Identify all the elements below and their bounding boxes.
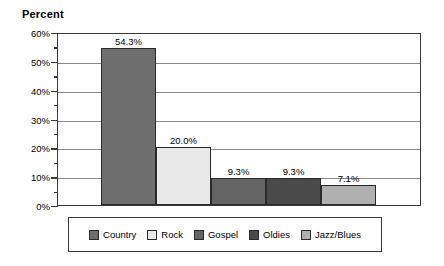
legend-swatch-icon bbox=[147, 230, 157, 240]
chart-legend: CountryRockGospelOldiesJazz/Blues bbox=[68, 217, 382, 252]
y-axis-tick-label: 50% bbox=[31, 56, 50, 67]
y-axis-tick-label: 20% bbox=[31, 143, 50, 154]
bar-chart: Percent 60%50%40%30%20%10%0% 54.3%20.0%9… bbox=[0, 0, 444, 266]
bars-layer: 54.3%20.0%9.3%9.3%7.1% bbox=[58, 34, 420, 205]
y-axis-major-tick bbox=[51, 206, 58, 207]
chart-title: Percent bbox=[22, 8, 64, 20]
legend-label: Gospel bbox=[208, 229, 238, 240]
legend-swatch-icon bbox=[194, 230, 204, 240]
bar bbox=[101, 48, 156, 205]
bar bbox=[156, 147, 211, 205]
bar bbox=[321, 185, 376, 205]
bar-value-label: 54.3% bbox=[115, 36, 142, 47]
legend-item[interactable]: Country bbox=[89, 229, 136, 240]
y-axis-tick-label: 0% bbox=[36, 201, 50, 212]
bar-value-label: 9.3% bbox=[228, 166, 250, 177]
legend-item[interactable]: Jazz/Blues bbox=[301, 229, 361, 240]
legend-swatch-icon bbox=[89, 230, 99, 240]
legend-label: Oldies bbox=[263, 229, 290, 240]
bar-value-label: 20.0% bbox=[170, 135, 197, 146]
legend-item[interactable]: Gospel bbox=[194, 229, 238, 240]
plot-area: 54.3%20.0%9.3%9.3%7.1% bbox=[57, 33, 421, 206]
legend-label: Rock bbox=[161, 229, 183, 240]
bar-value-label: 7.1% bbox=[338, 173, 360, 184]
y-axis-tick-label: 60% bbox=[31, 28, 50, 39]
legend-item[interactable]: Rock bbox=[147, 229, 183, 240]
bar-value-label: 9.3% bbox=[283, 166, 305, 177]
bar bbox=[211, 178, 266, 205]
legend-item[interactable]: Oldies bbox=[249, 229, 290, 240]
legend-label: Jazz/Blues bbox=[315, 229, 361, 240]
y-axis-tick-label: 10% bbox=[31, 172, 50, 183]
y-axis-tick-label: 30% bbox=[31, 114, 50, 125]
y-axis-labels: 60%50%40%30%20%10%0% bbox=[0, 33, 50, 206]
bar bbox=[266, 178, 321, 205]
legend-swatch-icon bbox=[301, 230, 311, 240]
legend-label: Country bbox=[103, 229, 136, 240]
legend-swatch-icon bbox=[249, 230, 259, 240]
y-axis-tick-label: 40% bbox=[31, 85, 50, 96]
